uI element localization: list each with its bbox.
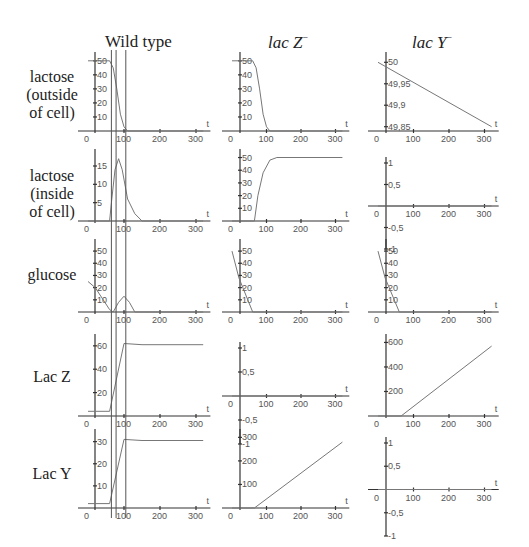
x-tick-label: 100 bbox=[259, 134, 274, 144]
y-tick-label: 50 bbox=[388, 246, 398, 256]
y-tick-label: 10 bbox=[242, 295, 252, 305]
x-tick-label: 0 bbox=[84, 419, 89, 429]
x-tick-label: 200 bbox=[152, 134, 167, 144]
x-axis-label: t bbox=[495, 404, 498, 414]
y-tick-label: 40 bbox=[97, 258, 107, 268]
x-tick-label: 100 bbox=[406, 419, 421, 429]
x-tick-label: 200 bbox=[152, 419, 167, 429]
y-tick-label: 20 bbox=[97, 283, 107, 293]
y-tick-label: 49,95 bbox=[388, 79, 411, 89]
y-tick-label: 20 bbox=[242, 98, 252, 108]
x-axis-label: t bbox=[206, 209, 209, 219]
y-tick-label: 50 bbox=[242, 153, 252, 163]
x-axis-label: t bbox=[345, 300, 348, 310]
y-tick-label: 20 bbox=[97, 388, 107, 398]
y-tick-label: 5 bbox=[97, 198, 102, 208]
y-tick-label: 40 bbox=[97, 70, 107, 80]
y-tick-label: 30 bbox=[97, 270, 107, 280]
y-tick-label: 40 bbox=[242, 70, 252, 80]
x-tick-label: 100 bbox=[259, 315, 274, 325]
data-series-line bbox=[88, 439, 203, 503]
x-tick-label: 300 bbox=[477, 134, 492, 144]
x-axis-label: t bbox=[206, 119, 209, 129]
y-tick-label: 0,5 bbox=[388, 180, 401, 190]
x-tick-label: 200 bbox=[293, 134, 308, 144]
y-tick-label: 30 bbox=[242, 270, 252, 280]
x-axis-label: t bbox=[206, 404, 209, 414]
x-tick-label: 300 bbox=[477, 493, 492, 503]
chart-panel: t01002003001020304050 bbox=[78, 52, 210, 144]
chart-panel: t0100200300-1-0,50,51 bbox=[368, 437, 499, 541]
y-tick-label: 40 bbox=[97, 364, 107, 374]
x-tick-label: 300 bbox=[328, 134, 343, 144]
x-tick-label: 200 bbox=[293, 224, 308, 234]
y-tick-label: 30 bbox=[242, 178, 252, 188]
x-tick-label: 300 bbox=[328, 399, 343, 409]
y-tick-label: 400 bbox=[388, 362, 403, 372]
x-tick-label: 300 bbox=[188, 511, 203, 521]
y-tick-label: -0,5 bbox=[242, 415, 258, 425]
x-tick-label: 0 bbox=[374, 209, 379, 219]
x-tick-label: 0 bbox=[228, 224, 233, 234]
x-tick-label: 100 bbox=[259, 511, 274, 521]
y-tick-label: 200 bbox=[242, 456, 257, 466]
y-tick-label: 30 bbox=[242, 84, 252, 94]
y-tick-label: 1 bbox=[388, 158, 393, 168]
x-axis-label: t bbox=[345, 384, 348, 394]
data-series-line bbox=[378, 346, 492, 416]
x-axis-label: t bbox=[495, 300, 498, 310]
y-tick-label: -1 bbox=[388, 531, 396, 541]
x-tick-label: 100 bbox=[259, 399, 274, 409]
chart-panel: t0100200300102030 bbox=[78, 429, 210, 521]
x-tick-label: 0 bbox=[84, 134, 89, 144]
x-tick-label: 0 bbox=[374, 134, 379, 144]
x-tick-label: 200 bbox=[152, 315, 167, 325]
x-axis-label: t bbox=[345, 496, 348, 506]
y-tick-label: 30 bbox=[97, 84, 107, 94]
x-tick-label: 0 bbox=[228, 399, 233, 409]
chart-panel: t010020030051015 bbox=[78, 149, 210, 234]
x-tick-label: 300 bbox=[188, 134, 203, 144]
y-tick-label: 30 bbox=[97, 437, 107, 447]
y-tick-label: 10 bbox=[242, 112, 252, 122]
y-tick-label: -0,5 bbox=[388, 223, 404, 233]
y-tick-label: 20 bbox=[242, 283, 252, 293]
x-tick-label: 0 bbox=[84, 511, 89, 521]
chart-panel: t01002003001020304050 bbox=[222, 149, 349, 234]
x-axis-label: t bbox=[345, 119, 348, 129]
y-tick-label: 300 bbox=[242, 432, 257, 442]
x-tick-label: 300 bbox=[188, 315, 203, 325]
x-tick-label: 100 bbox=[116, 134, 131, 144]
x-tick-label: 300 bbox=[188, 419, 203, 429]
x-axis-label: t bbox=[495, 119, 498, 129]
x-tick-label: 200 bbox=[441, 493, 456, 503]
x-tick-label: 100 bbox=[116, 315, 131, 325]
x-tick-label: 300 bbox=[328, 315, 343, 325]
x-tick-label: 100 bbox=[116, 224, 131, 234]
x-axis-label: t bbox=[206, 300, 209, 310]
y-tick-label: 40 bbox=[242, 258, 252, 268]
x-tick-label: 0 bbox=[228, 315, 233, 325]
y-tick-label: 1 bbox=[242, 343, 247, 353]
y-tick-label: 0,5 bbox=[388, 461, 401, 471]
y-tick-label: 10 bbox=[97, 481, 107, 491]
x-tick-label: 0 bbox=[374, 315, 379, 325]
y-tick-label: -0,5 bbox=[388, 508, 404, 518]
y-tick-label: 40 bbox=[242, 165, 252, 175]
y-tick-label: 20 bbox=[97, 98, 107, 108]
x-tick-label: 100 bbox=[116, 419, 131, 429]
x-axis-label: t bbox=[345, 209, 348, 219]
y-tick-label: 100 bbox=[242, 479, 257, 489]
x-tick-label: 0 bbox=[84, 315, 89, 325]
x-axis-label: t bbox=[495, 478, 498, 488]
y-tick-label: 10 bbox=[97, 112, 107, 122]
y-tick-label: 600 bbox=[388, 337, 403, 347]
x-axis-label: t bbox=[206, 496, 209, 506]
y-tick-label: 60 bbox=[97, 341, 107, 351]
x-tick-label: 100 bbox=[406, 315, 421, 325]
chart-panel: t0100200300-1-0,50,51 bbox=[368, 157, 499, 254]
chart-panel: t01002003001020304050 bbox=[78, 239, 210, 325]
x-tick-label: 0 bbox=[374, 493, 379, 503]
x-tick-label: 100 bbox=[406, 493, 421, 503]
y-tick-label: 50 bbox=[97, 246, 107, 256]
